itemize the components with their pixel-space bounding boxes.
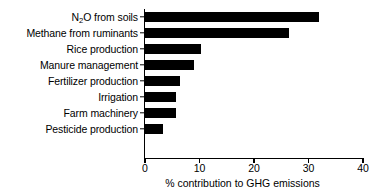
category-tick-mark bbox=[140, 16, 145, 17]
bar-row: Fertilizer production bbox=[145, 73, 363, 89]
category-tick-mark bbox=[140, 80, 145, 81]
x-axis-tick-label: 40 bbox=[357, 163, 369, 174]
category-tick-mark bbox=[140, 32, 145, 33]
x-axis-title: % contribution to GHG emissions bbox=[0, 178, 385, 189]
bar bbox=[145, 44, 201, 54]
category-label: Farm machinery bbox=[64, 108, 138, 119]
bar bbox=[145, 108, 176, 118]
category-label: Pesticide production bbox=[45, 124, 138, 135]
x-axis-tick-label: 30 bbox=[303, 163, 315, 174]
bar-row: Irrigation bbox=[145, 89, 363, 105]
category-label: Methane from ruminants bbox=[26, 28, 138, 39]
bar-row: N2O from soils bbox=[145, 9, 363, 25]
bar-row: Pesticide production bbox=[145, 121, 363, 137]
bar bbox=[145, 76, 180, 86]
x-axis-tick-label: 20 bbox=[248, 163, 260, 174]
category-label: Irrigation bbox=[98, 92, 138, 103]
bar-row: Rice production bbox=[145, 41, 363, 57]
category-label: N2O from soils bbox=[72, 12, 138, 23]
bar bbox=[145, 60, 194, 70]
x-axis-tick-label: 0 bbox=[142, 163, 148, 174]
bar bbox=[145, 92, 176, 102]
category-label: Rice production bbox=[67, 44, 138, 55]
ghg-emissions-bar-chart: N2O from soilsMethane from ruminantsRice… bbox=[0, 0, 385, 196]
plot-area: N2O from soilsMethane from ruminantsRice… bbox=[145, 9, 363, 137]
bar bbox=[145, 12, 319, 22]
category-tick-mark bbox=[140, 48, 145, 49]
category-tick-mark bbox=[140, 112, 145, 113]
bar-row: Farm machinery bbox=[145, 105, 363, 121]
bar-row: Methane from ruminants bbox=[145, 25, 363, 41]
category-label: Fertilizer production bbox=[48, 76, 138, 87]
bar-row: Manure management bbox=[145, 57, 363, 73]
bar bbox=[145, 28, 289, 38]
category-tick-mark bbox=[140, 128, 145, 129]
category-tick-mark bbox=[140, 64, 145, 65]
category-tick-mark bbox=[140, 96, 145, 97]
x-axis-tick-label: 10 bbox=[194, 163, 206, 174]
category-label: Manure management bbox=[40, 60, 138, 71]
bar bbox=[145, 124, 163, 134]
